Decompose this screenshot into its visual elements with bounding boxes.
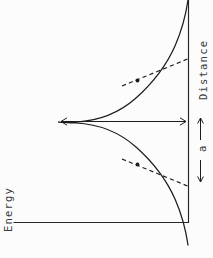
inflection-point-upper	[136, 79, 140, 83]
energy-curve	[58, 0, 188, 245]
inflection-point-lower	[136, 163, 140, 167]
plot-canvas	[0, 0, 213, 258]
figure-root: Energy Distance a	[0, 0, 213, 258]
distance-axis-label: Distance	[197, 40, 209, 100]
peak-width-arrow	[61, 118, 186, 125]
dimension-a-label: a	[196, 146, 208, 152]
tangent-line-upper	[122, 58, 190, 86]
energy-axis-label: Energy	[2, 187, 14, 232]
tangent-line-lower	[122, 159, 190, 187]
